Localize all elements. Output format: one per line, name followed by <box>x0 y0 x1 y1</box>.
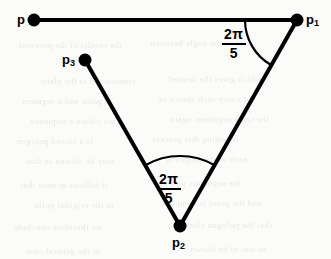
vertex-dot-p2 <box>174 220 187 233</box>
vertex-dot-p3 <box>79 54 92 67</box>
geometric-figure: the results of the previousand so the an… <box>0 0 331 259</box>
point-label-subscript: 3 <box>70 58 75 68</box>
point-label-p2: p2 <box>172 236 185 249</box>
point-label-base: p <box>306 12 314 27</box>
angle-denominator: 5 <box>222 45 246 61</box>
angle-numerator: 2π <box>222 27 246 43</box>
diagram-canvas <box>0 0 331 259</box>
point-label-p3: p3 <box>62 53 75 66</box>
angle-value-angle-at-p1: 2π5 <box>222 27 246 60</box>
point-label-base: p <box>172 235 180 250</box>
angle-denominator: 5 <box>157 190 181 206</box>
arc-angle-at-p2 <box>145 156 214 165</box>
point-label-p: p <box>17 13 25 26</box>
point-label-base: p <box>17 12 25 27</box>
arc-angle-at-p1 <box>245 20 271 65</box>
angle-numerator: 2π <box>157 172 181 188</box>
angle-arcs-group <box>145 20 271 165</box>
vertex-dot-p1 <box>291 14 304 27</box>
angle-value-angle-at-p2: 2π5 <box>157 172 181 205</box>
point-label-subscript: 1 <box>314 18 319 28</box>
point-label-base: p <box>62 52 70 67</box>
point-label-subscript: 2 <box>180 241 185 251</box>
vertex-dot-p <box>28 14 41 27</box>
point-label-p1: p1 <box>306 13 319 26</box>
